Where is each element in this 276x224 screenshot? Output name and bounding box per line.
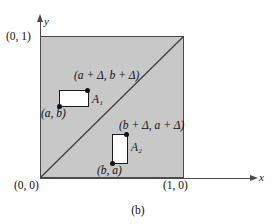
region-a2-upper-right-dot bbox=[124, 132, 129, 137]
region-a2-lower-left-label: (b, a) bbox=[97, 165, 122, 177]
y-axis-label: y bbox=[44, 16, 49, 27]
region-a1-upper-right-dot bbox=[85, 88, 90, 93]
region-a1-lower-left-label: (a, b) bbox=[41, 108, 66, 120]
region-a1-name: A₁ bbox=[92, 94, 103, 106]
corner-label-bottom-right: (1, 0) bbox=[163, 180, 188, 192]
region-rect-a1 bbox=[59, 90, 89, 107]
x-axis-line bbox=[40, 178, 252, 179]
region-rect-a2 bbox=[112, 134, 128, 164]
region-a2-upper-right-label: (b + Δ, a + Δ) bbox=[119, 120, 184, 132]
y-axis-arrow-icon bbox=[37, 14, 43, 22]
region-a2-name: A₂ bbox=[131, 142, 142, 154]
region-a1-upper-right-label: (a + Δ, b + Δ) bbox=[74, 70, 139, 82]
x-axis-label: x bbox=[259, 172, 264, 183]
y-axis-line bbox=[40, 20, 41, 178]
figure-panel-b: y x (0, 1) (0, 0) (1, 0) (a + Δ, b + Δ) … bbox=[0, 0, 276, 224]
corner-label-top-left: (0, 1) bbox=[6, 31, 31, 43]
corner-label-origin: (0, 0) bbox=[14, 180, 39, 192]
x-axis-arrow-icon bbox=[250, 175, 258, 181]
figure-caption: (b) bbox=[0, 204, 276, 216]
